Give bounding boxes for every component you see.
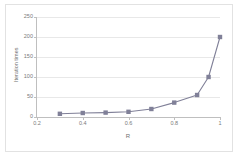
y-axis-title: Iteration times: [14, 35, 20, 95]
plot-area: 0501001502002500.20.40.60.81: [36, 17, 220, 118]
y-axis-title-container: Iteration times: [11, 28, 23, 108]
data-point-marker: [58, 112, 62, 116]
y-axis-tick-label: 50: [27, 94, 33, 100]
x-axis-tick-label: 0.6: [125, 121, 133, 127]
x-axis-tick-label: 1: [218, 121, 221, 127]
data-point-marker: [103, 110, 107, 114]
data-point-marker: [149, 107, 153, 111]
x-axis-tick-mark: [83, 117, 84, 120]
x-axis-tick-mark: [37, 117, 38, 120]
y-axis-tick-label: 100: [24, 74, 33, 80]
x-axis-tick-mark: [220, 117, 221, 120]
x-axis-tick-label: 0.2: [33, 121, 41, 127]
x-axis-tick-label: 0.8: [170, 121, 178, 127]
y-axis-tick-label: 200: [24, 34, 33, 40]
y-axis-tick-label: 0: [30, 114, 33, 120]
series-line: [60, 37, 220, 114]
chart-figure: Iteration times 0501001502002500.20.40.6…: [0, 0, 238, 157]
y-axis-tick-label: 150: [24, 54, 33, 60]
x-axis-tick-label: 0.4: [79, 121, 87, 127]
data-series-iteration-times: [37, 17, 220, 117]
data-point-marker: [126, 110, 130, 114]
data-point-marker: [195, 93, 199, 97]
x-axis-title: R: [36, 133, 220, 139]
data-point-marker: [81, 111, 85, 115]
y-axis-tick-label: 250: [24, 14, 33, 20]
x-axis-tick-mark: [174, 117, 175, 120]
x-axis-tick-mark: [129, 117, 130, 120]
data-point-marker: [172, 100, 176, 104]
data-point-marker: [218, 35, 222, 39]
data-point-marker: [206, 75, 210, 79]
